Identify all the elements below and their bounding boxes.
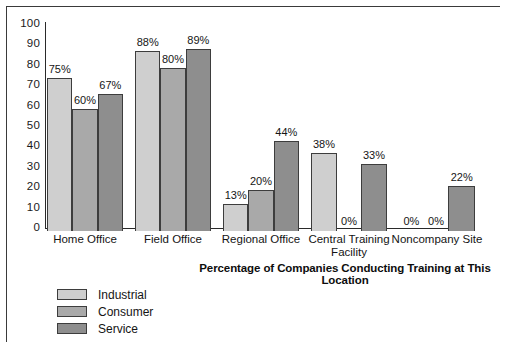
bar[interactable]: 89% bbox=[186, 49, 211, 231]
bar-group: 38%0%33% bbox=[311, 24, 387, 231]
bar-value-label: 75% bbox=[49, 64, 71, 75]
legend-item[interactable]: Industrial bbox=[57, 287, 153, 302]
y-tick-label: 80 bbox=[14, 59, 40, 71]
bar-value-label: 0% bbox=[341, 216, 357, 227]
y-tick-label: 60 bbox=[14, 100, 40, 112]
legend-label: Consumer bbox=[98, 306, 153, 318]
bar-value-label: 0% bbox=[403, 216, 419, 227]
chart-figure: 1009080706050403020100 75%60%67%88%80%89… bbox=[0, 0, 514, 349]
y-axis-line bbox=[45, 22, 46, 229]
bar[interactable]: 80% bbox=[160, 68, 185, 231]
bar[interactable]: 33% bbox=[361, 164, 387, 231]
y-tick-label: 100 bbox=[14, 18, 40, 30]
y-tick-label: 30 bbox=[14, 161, 40, 173]
y-tick-label: 90 bbox=[14, 38, 40, 50]
bar-value-label: 13% bbox=[225, 190, 247, 201]
bar-group: 75%60%67% bbox=[47, 24, 123, 231]
y-tick-label: 50 bbox=[14, 120, 40, 132]
legend-item[interactable]: Service bbox=[57, 321, 153, 336]
bar[interactable]: 13% bbox=[223, 204, 248, 231]
bar[interactable]: 20% bbox=[248, 190, 273, 231]
y-tick-label: 10 bbox=[14, 202, 40, 214]
legend-swatch bbox=[57, 323, 87, 334]
legend-item[interactable]: Consumer bbox=[57, 304, 153, 319]
bar[interactable]: 88% bbox=[135, 51, 160, 231]
category-label: Noncompany Site bbox=[381, 233, 493, 246]
bar[interactable]: 75% bbox=[47, 78, 72, 231]
y-tick-label: 70 bbox=[14, 79, 40, 91]
y-tick-label: 20 bbox=[14, 181, 40, 193]
bar-value-label: 38% bbox=[313, 139, 335, 150]
bar-group: 88%80%89% bbox=[135, 24, 211, 231]
y-tick-label: 40 bbox=[14, 140, 40, 152]
bar[interactable]: 38% bbox=[311, 153, 337, 231]
legend-swatch bbox=[57, 289, 87, 300]
bar-value-label: 88% bbox=[137, 37, 159, 48]
bar-value-label: 80% bbox=[162, 54, 184, 65]
bar-value-label: 22% bbox=[451, 172, 473, 183]
bar-group: 0%0%22% bbox=[399, 24, 475, 231]
y-tick-label: 0 bbox=[14, 222, 40, 234]
legend-label: Industrial bbox=[98, 289, 147, 301]
x-axis-title: Percentage of Companies Conducting Train… bbox=[190, 262, 500, 286]
bar[interactable]: 67% bbox=[98, 94, 123, 231]
bar-value-label: 89% bbox=[187, 35, 209, 46]
legend-label: Service bbox=[98, 323, 138, 335]
bar-group: 13%20%44% bbox=[223, 24, 299, 231]
bar[interactable]: 60% bbox=[72, 109, 97, 231]
bar[interactable]: 22% bbox=[448, 186, 475, 231]
bar-value-label: 0% bbox=[428, 216, 444, 227]
chart-legend: IndustrialConsumerService bbox=[57, 287, 153, 338]
legend-swatch bbox=[57, 306, 87, 317]
bar-value-label: 67% bbox=[99, 80, 121, 91]
bar-value-label: 20% bbox=[250, 176, 272, 187]
bar-value-label: 60% bbox=[74, 95, 96, 106]
bar[interactable]: 44% bbox=[274, 141, 299, 231]
bar-value-label: 33% bbox=[363, 150, 385, 161]
bar-value-label: 44% bbox=[275, 127, 297, 138]
